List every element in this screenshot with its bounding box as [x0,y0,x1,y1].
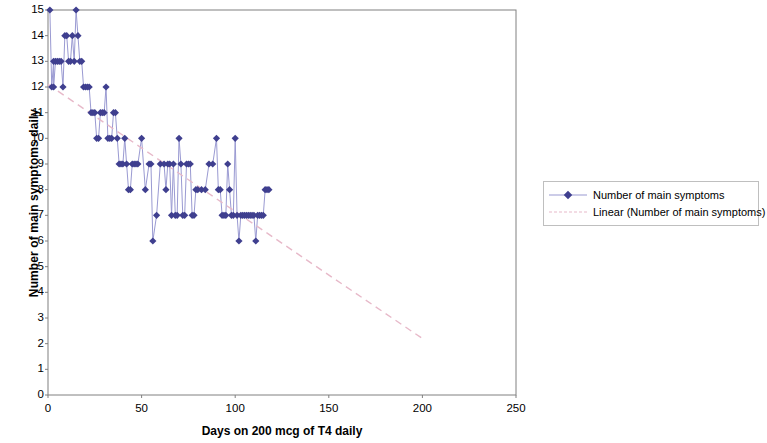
y-tick-label: 3 [18,312,44,324]
y-tick-label: 13 [18,56,44,68]
y-tick-label: 1 [18,364,44,376]
y-tick-label: 12 [18,81,44,93]
y-tick-label: 11 [18,107,44,119]
x-tick-label: 100 [226,402,245,414]
data-point [175,135,182,142]
x-axis-title: Days on 200 mcg of T4 daily [48,424,516,438]
y-tick-label: 5 [18,261,44,273]
series-markers [46,6,272,244]
data-point [46,6,53,13]
data-point [209,160,216,167]
y-tick-label: 0 [18,389,44,401]
data-point [114,135,121,142]
data-point [102,83,109,90]
y-tick-label: 6 [18,235,44,247]
chart-legend: Number of main symptoms Linear (Number o… [543,181,759,226]
series-line [50,10,269,241]
legend-label-trendline: Linear (Number of main symptoms) [589,206,765,218]
x-tick-label: 50 [135,402,148,414]
legend-label-series: Number of main symptoms [589,189,724,201]
y-tick-label: 9 [18,158,44,170]
y-tick-label: 10 [18,133,44,145]
data-point [213,135,220,142]
data-point [59,83,66,90]
plot-frame [48,10,516,395]
y-tick-label: 14 [18,30,44,42]
data-point [170,160,177,167]
y-tick-label: 2 [18,338,44,350]
data-point [153,212,160,219]
data-point [121,135,128,142]
data-point [162,186,169,193]
legend-entry-series: Number of main symptoms [547,186,755,203]
data-point [138,135,145,142]
data-point [232,135,239,142]
x-tick-label: 150 [319,402,338,414]
data-point [72,6,79,13]
x-tick-label: 200 [413,402,432,414]
y-tick-label: 8 [18,184,44,196]
legend-dashed-line-icon [547,204,589,220]
chart-figure: Number of main symptoms daily 0123456789… [0,0,767,443]
legend-entry-trendline: Linear (Number of main symptoms) [547,203,755,220]
y-axis-tick-labels: 0123456789101112131415 [14,0,44,443]
data-point [149,237,156,244]
data-point [252,237,259,244]
data-point [142,186,149,193]
y-tick-label: 4 [18,287,44,299]
x-tick-label: 0 [45,402,51,414]
data-point [224,160,231,167]
data-point [235,237,242,244]
y-tick-label: 7 [18,210,44,222]
legend-marker-line-icon [547,187,589,203]
x-tick-label: 250 [506,402,525,414]
y-tick-label: 15 [18,4,44,16]
trendline [48,84,422,338]
